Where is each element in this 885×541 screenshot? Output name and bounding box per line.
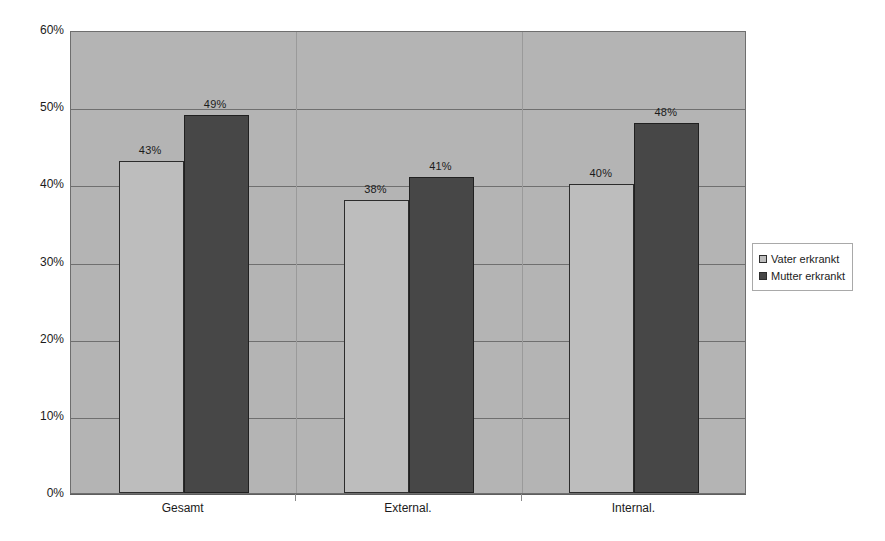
bar-value-label: 43%	[118, 144, 183, 156]
legend-item: Vater erkrankt	[759, 250, 845, 267]
bar-chart: 0%10%20%30%40%50%60% 43%49%38%41%40%48% …	[0, 0, 885, 541]
bar	[409, 177, 474, 493]
x-category-label: Internal.	[521, 501, 746, 515]
legend-label: Vater erkrankt	[771, 253, 839, 265]
bar-value-label: 49%	[183, 98, 248, 110]
category-divider	[522, 32, 523, 493]
plot-area	[70, 31, 746, 494]
legend: Vater erkranktMutter erkrankt	[752, 243, 853, 291]
y-axis: 0%10%20%30%40%50%60%	[8, 0, 64, 541]
bar-value-label: 40%	[568, 167, 633, 179]
bar-value-label: 41%	[408, 160, 473, 172]
y-tick-label: 40%	[18, 177, 64, 191]
bar-value-label: 48%	[633, 106, 698, 118]
legend-item: Mutter erkrankt	[759, 267, 845, 284]
bar	[119, 161, 184, 493]
bar	[344, 200, 409, 493]
bar	[634, 123, 699, 493]
bar	[569, 184, 634, 493]
legend-label: Mutter erkrankt	[771, 270, 845, 282]
y-tick-label: 10%	[18, 409, 64, 423]
category-divider	[296, 32, 297, 493]
x-axis-line	[70, 494, 746, 495]
x-category-label: External.	[295, 501, 520, 515]
y-tick-label: 60%	[18, 23, 64, 37]
x-category-label: Gesamt	[70, 501, 295, 515]
y-tick-label: 50%	[18, 100, 64, 114]
legend-swatch-icon	[759, 255, 767, 263]
x-tick-mark	[295, 494, 296, 501]
y-tick-label: 20%	[18, 332, 64, 346]
bar-value-label: 38%	[343, 183, 408, 195]
y-tick-label: 30%	[18, 255, 64, 269]
legend-swatch-icon	[759, 272, 767, 280]
x-tick-mark	[521, 494, 522, 501]
bar	[184, 115, 249, 493]
y-tick-label: 0%	[18, 486, 64, 500]
